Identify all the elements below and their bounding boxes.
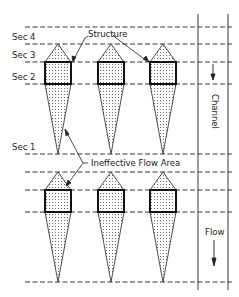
structure-lower-1	[45, 172, 71, 282]
ineffective-leaders	[65, 129, 88, 186]
channel-label: Channel	[211, 94, 220, 129]
ineffective-flow-diagram	[0, 0, 239, 297]
flow-arrow-down-icon	[212, 240, 216, 266]
structure-upper-3	[150, 44, 176, 154]
structure-row-lower	[45, 172, 176, 282]
section-label-sec2: Sec 2	[12, 73, 35, 82]
structure-row-upper	[45, 44, 176, 154]
flow-label: Flow	[205, 228, 224, 237]
structure-lower-2	[98, 172, 124, 282]
arrow-down-icon	[211, 64, 215, 80]
section-label-sec3: Sec 3	[12, 51, 35, 60]
ineffective-flow-area-label: Ineffective Flow Area	[91, 159, 180, 168]
section-label-sec4: Sec 4	[12, 33, 35, 42]
section-label-sec1: Sec 1	[12, 143, 35, 152]
structure-upper-1	[45, 44, 71, 154]
structure-callout-label: Structure	[88, 30, 128, 39]
structure-lower-3	[150, 172, 176, 282]
structure-upper-2	[98, 44, 124, 154]
